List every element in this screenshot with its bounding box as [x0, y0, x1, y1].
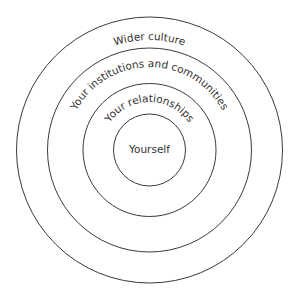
label-relationships: Your relationships	[101, 92, 197, 125]
diagram-canvas: Wider culture Your institutions and comm…	[0, 0, 295, 298]
label-wider-culture: Wider culture	[112, 30, 187, 48]
label-yourself: Yourself	[128, 143, 170, 155]
concentric-circles-diagram: Wider culture Your institutions and comm…	[0, 0, 295, 298]
